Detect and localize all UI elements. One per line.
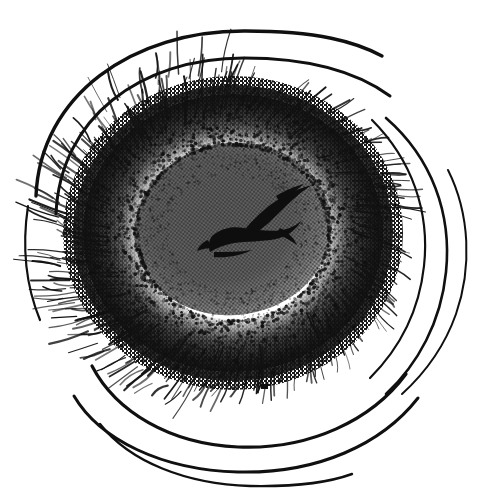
ink-speck — [261, 384, 268, 389]
illustration-canvas: A black and white pen-and-ink drawing of… — [0, 0, 488, 498]
ink-illustration-artwork — [0, 0, 488, 498]
